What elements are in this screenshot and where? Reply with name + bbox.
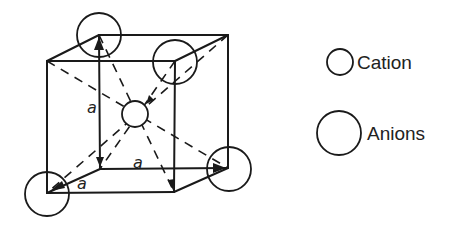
depth-top-left-edge <box>47 35 99 61</box>
arrow-down-icon <box>96 157 104 167</box>
legend-cation-symbol <box>327 49 353 75</box>
legend-anion-symbol <box>317 111 361 155</box>
lattice-label-depth: a <box>77 174 87 193</box>
arrow-down-left-icon <box>50 181 65 191</box>
legend-cation-label: Cation <box>357 52 412 73</box>
lattice-label-vertical: a <box>87 98 97 117</box>
unit-cell-diagram: a a a Cation Anions <box>0 0 459 232</box>
legend: Cation Anions <box>317 49 425 155</box>
cation-center <box>122 101 148 127</box>
legend-anion-label: Anions <box>367 123 425 144</box>
lattice-label-horizontal: a <box>133 153 143 172</box>
back-bottom-edge <box>100 168 228 169</box>
front-bottom-edge <box>47 192 174 193</box>
arrow-up-icon <box>94 37 104 50</box>
back-left-edge <box>99 35 100 169</box>
